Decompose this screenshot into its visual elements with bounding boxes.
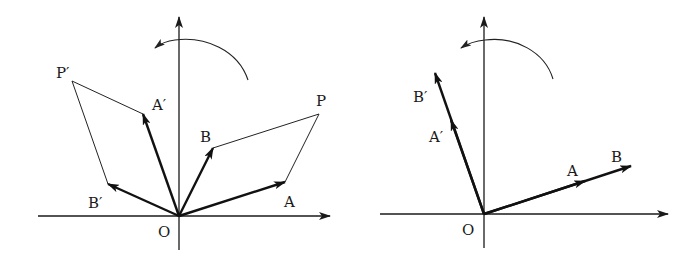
side-Bprime-Pprime [72, 81, 108, 184]
side-Aprime-Pprime [72, 81, 143, 114]
label-A: A [566, 162, 578, 180]
side-A-P [285, 114, 319, 182]
rotation-arc-icon [461, 39, 553, 79]
label-A: A [283, 193, 295, 211]
vector-OA [179, 182, 285, 216]
rotation-arc-icon [155, 39, 248, 80]
vector-OA [484, 181, 585, 214]
label-B: B [611, 148, 622, 166]
label-origin: O [158, 223, 170, 241]
label-P: P [316, 92, 326, 110]
left-panel: O A B P A′ B′ P′ [38, 17, 330, 250]
label-B: B [200, 128, 211, 146]
vector-OAprime [143, 114, 179, 216]
side-B-P [213, 114, 319, 148]
label-A-prime: A′ [428, 128, 444, 146]
label-A-prime: A′ [151, 96, 167, 114]
label-P-prime: P′ [56, 64, 70, 82]
label-B-prime: B′ [413, 88, 428, 106]
right-panel: O A B A′ B′ [380, 17, 668, 248]
label-B-prime: B′ [88, 194, 103, 212]
vector-OAprime [451, 120, 484, 214]
rotation-diagram: O A B P A′ B′ P′ O A B A′ B′ [0, 0, 699, 268]
label-origin: O [462, 221, 474, 239]
